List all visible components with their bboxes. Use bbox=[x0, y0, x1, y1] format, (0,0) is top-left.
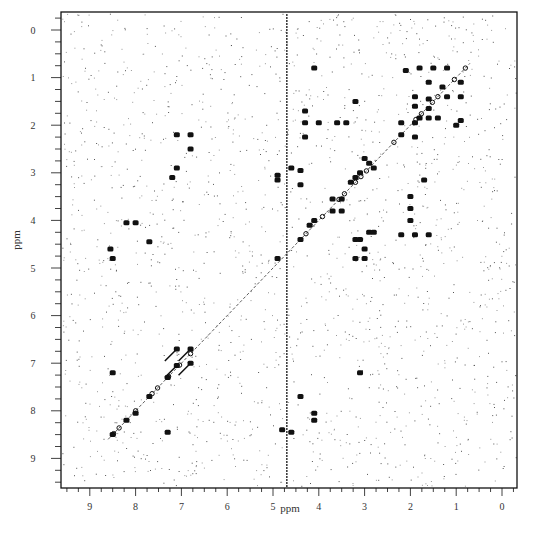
y-tick-label: 0 bbox=[31, 25, 36, 36]
y-tick-label: 2 bbox=[31, 120, 36, 131]
y-tick-label: 3 bbox=[31, 167, 36, 178]
nmr-spectrum-plot: 9876543210 0123456789 ppm ppm bbox=[0, 0, 533, 533]
cross-peaks bbox=[107, 66, 463, 438]
plot-frame bbox=[61, 12, 517, 488]
diagonal-peaks bbox=[108, 63, 470, 439]
x-axis-title: ppm bbox=[280, 502, 300, 514]
x-tick-label: 6 bbox=[225, 501, 230, 512]
y-axis-ticks: 0123456789 bbox=[31, 18, 62, 482]
x-tick-label: 7 bbox=[179, 501, 184, 512]
x-tick-label: 3 bbox=[362, 501, 367, 512]
y-tick-label: 7 bbox=[31, 358, 36, 369]
x-tick-label: 0 bbox=[500, 501, 505, 512]
y-tick-label: 6 bbox=[31, 310, 36, 321]
x-tick-label: 5 bbox=[271, 501, 276, 512]
x-tick-label: 1 bbox=[454, 501, 459, 512]
y-tick-label: 4 bbox=[31, 215, 36, 226]
y-axis-title: ppm bbox=[10, 230, 22, 250]
solvent-stripe bbox=[286, 14, 287, 487]
x-tick-label: 9 bbox=[87, 501, 92, 512]
y-tick-label: 5 bbox=[31, 263, 36, 274]
y-tick-label: 8 bbox=[31, 405, 36, 416]
x-tick-label: 2 bbox=[408, 501, 413, 512]
x-tick-label: 8 bbox=[133, 501, 138, 512]
y-tick-label: 9 bbox=[31, 453, 36, 464]
x-tick-label: 4 bbox=[316, 501, 321, 512]
y-tick-label: 1 bbox=[31, 72, 36, 83]
